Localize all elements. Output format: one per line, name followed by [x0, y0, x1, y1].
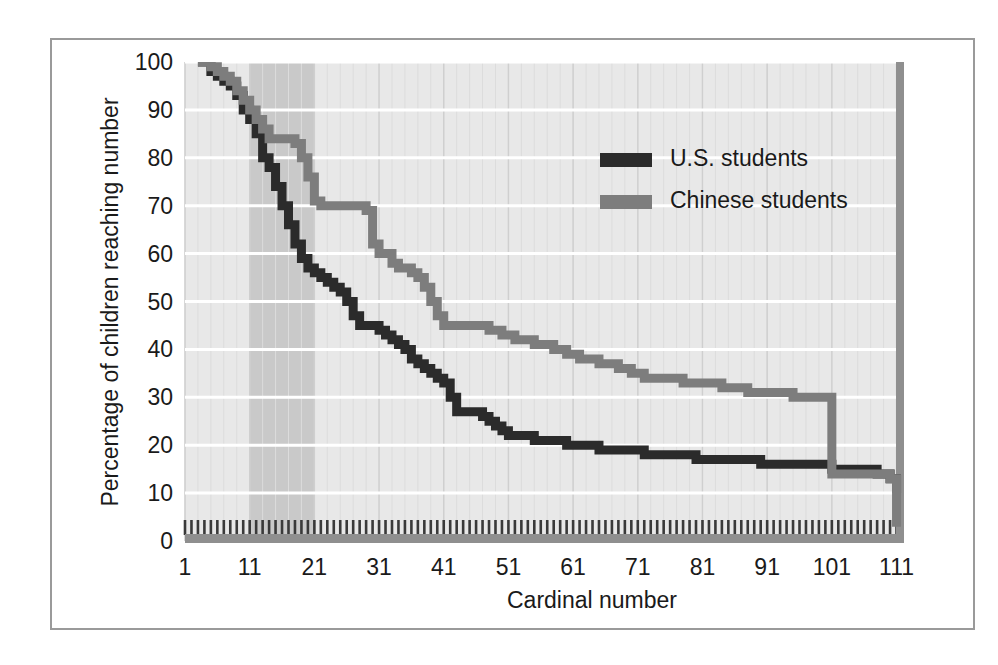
x-tick-label: 91 — [754, 554, 780, 580]
x-axis-tick-labels: 1112131415161718191101111 — [179, 554, 914, 580]
x-tick-mark — [533, 520, 536, 535]
x-tick-mark — [423, 520, 426, 535]
y-axis-right-spine — [896, 62, 904, 543]
x-tick-mark — [734, 520, 737, 535]
x-tick-mark — [455, 520, 458, 535]
x-tick-mark — [876, 520, 879, 535]
x-tick-mark — [339, 520, 342, 535]
x-tick-mark — [514, 520, 517, 535]
x-tick-mark — [300, 520, 303, 535]
y-tick-label: 90 — [147, 97, 173, 123]
x-tick-mark — [462, 520, 465, 535]
x-tick-mark — [197, 520, 200, 535]
x-tick-label: 51 — [496, 554, 522, 580]
y-axis-title: Percentage of children reaching number — [97, 97, 123, 506]
line-chart: 0102030405060708090100 11121314151617181… — [0, 0, 998, 665]
x-tick-label: 81 — [690, 554, 716, 580]
x-tick-mark — [436, 520, 439, 535]
y-axis-tick-labels: 0102030405060708090100 — [135, 49, 173, 554]
x-tick-mark — [417, 520, 420, 535]
x-tick-mark — [378, 520, 381, 535]
x-tick-mark — [688, 520, 691, 535]
x-tick-mark — [753, 520, 756, 535]
x-tick-mark — [404, 520, 407, 535]
x-tick-mark — [216, 520, 219, 535]
x-tick-mark — [223, 520, 226, 535]
x-tick-mark — [585, 520, 588, 535]
x-tick-mark — [785, 520, 788, 535]
x-tick-mark — [274, 520, 277, 535]
x-tick-mark — [798, 520, 801, 535]
x-tick-mark — [863, 520, 866, 535]
x-tick-mark — [630, 520, 633, 535]
x-tick-mark — [546, 520, 549, 535]
x-tick-mark — [721, 520, 724, 535]
x-tick-mark — [320, 520, 323, 535]
x-tick-mark — [662, 520, 665, 535]
x-tick-label: 31 — [366, 554, 392, 580]
x-tick-mark — [578, 520, 581, 535]
x-tick-label: 41 — [431, 554, 457, 580]
x-tick-mark — [675, 520, 678, 535]
x-tick-mark — [268, 520, 271, 535]
x-tick-mark — [365, 520, 368, 535]
x-tick-mark — [591, 520, 594, 535]
x-tick-mark — [636, 520, 639, 535]
x-axis-baseline — [185, 534, 903, 543]
x-tick-mark — [604, 520, 607, 535]
x-tick-mark — [572, 520, 575, 535]
y-tick-label: 0 — [160, 528, 173, 554]
x-tick-mark — [501, 520, 504, 535]
x-tick-mark — [611, 520, 614, 535]
x-tick-mark — [617, 520, 620, 535]
x-tick-mark — [261, 520, 264, 535]
y-tick-label: 30 — [147, 384, 173, 410]
x-tick-mark — [824, 520, 827, 535]
x-tick-mark — [740, 520, 743, 535]
x-tick-mark — [598, 520, 601, 535]
x-tick-mark — [410, 520, 413, 535]
x-tick-mark — [287, 520, 290, 535]
x-tick-mark — [714, 520, 717, 535]
x-tick-mark — [507, 520, 510, 535]
x-tick-mark — [682, 520, 685, 535]
x-tick-mark — [843, 520, 846, 535]
x-tick-mark — [481, 520, 484, 535]
x-tick-mark — [184, 520, 187, 535]
x-tick-mark — [850, 520, 853, 535]
x-tick-mark — [294, 520, 297, 535]
x-tick-mark — [727, 520, 730, 535]
x-tick-mark — [229, 520, 232, 535]
x-tick-label: 11 — [238, 554, 262, 580]
x-tick-mark — [494, 520, 497, 535]
y-tick-label: 40 — [147, 336, 173, 362]
x-tick-mark — [746, 520, 749, 535]
x-tick-mark — [242, 520, 245, 535]
x-tick-mark — [248, 520, 251, 535]
x-tick-mark — [391, 520, 394, 535]
x-tick-mark — [371, 520, 374, 535]
x-tick-mark — [345, 520, 348, 535]
x-tick-mark — [837, 520, 840, 535]
legend-swatch — [600, 153, 652, 167]
x-tick-mark — [779, 520, 782, 535]
y-tick-label: 20 — [147, 432, 173, 458]
x-tick-mark — [203, 520, 206, 535]
x-tick-mark — [475, 520, 478, 535]
y-tick-label: 50 — [147, 289, 173, 315]
x-tick-mark — [255, 520, 258, 535]
x-tick-mark — [539, 520, 542, 535]
x-tick-mark — [649, 520, 652, 535]
x-tick-mark — [190, 520, 193, 535]
x-tick-mark — [869, 520, 872, 535]
x-tick-mark — [818, 520, 821, 535]
x-tick-mark — [520, 520, 523, 535]
x-tick-mark — [772, 520, 775, 535]
x-tick-mark — [889, 520, 892, 535]
x-tick-label: 111 — [879, 554, 914, 580]
figure-root: 0102030405060708090100 11121314151617181… — [0, 0, 998, 665]
x-tick-label: 101 — [813, 554, 851, 580]
y-tick-label: 100 — [135, 49, 173, 75]
x-axis-title: Cardinal number — [507, 587, 677, 613]
x-tick-mark — [384, 520, 387, 535]
